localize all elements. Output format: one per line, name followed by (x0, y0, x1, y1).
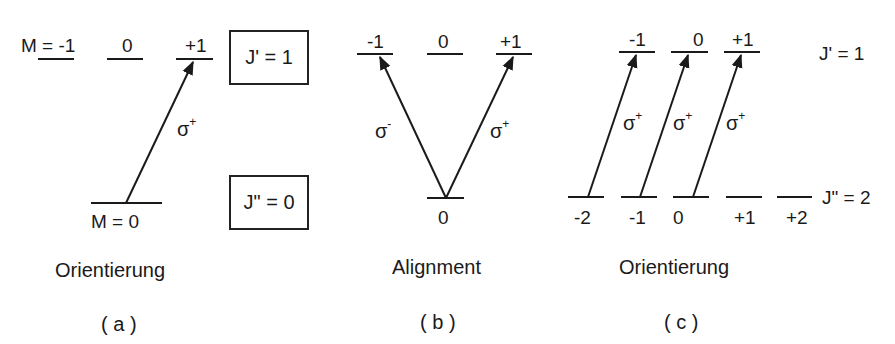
panel-b-caption: ( b ) (420, 312, 456, 332)
panel-c-lower-level-m+2: +2 (786, 208, 808, 227)
panel-b-sigma-plus: σ+ (490, 120, 509, 141)
panel-c-sigma-plus-2: σ+ (673, 112, 692, 133)
panel-b-level-m0: 0 (438, 32, 449, 51)
panel-a-upper-state-box: J' = 1 (229, 30, 309, 85)
panel-c-caption: ( c ) (664, 312, 698, 332)
panel-a-caption: ( a ) (101, 314, 137, 334)
panel-c-lower-level-m-1: -1 (629, 208, 646, 227)
panel-b-level-m+1: +1 (500, 32, 522, 51)
panel-c-level-m+1: +1 (732, 30, 754, 49)
panel-a-level-m0: 0 (122, 36, 133, 55)
panel-a-lower-state-box: J" = 0 (229, 175, 309, 230)
panel-c-sigma-plus-3: σ+ (726, 112, 745, 133)
panel-a-level-m+1: +1 (185, 36, 207, 55)
panel-b-sigma-minus: σ- (375, 120, 391, 141)
panel-a-lower-level-label: M = 0 (91, 212, 139, 231)
panel-b-lower-level-label: 0 (438, 208, 449, 227)
panel-c-level-m0: 0 (693, 30, 704, 49)
panel-c-lower-level-m-2: -2 (574, 208, 591, 227)
panel-c-level-m-1: -1 (629, 30, 646, 49)
panel-c-upper-state-label: J' = 1 (819, 44, 864, 63)
panel-a-sigma-plus: σ+ (177, 118, 196, 139)
panel-c-sigma-plus-1: σ+ (623, 112, 642, 133)
panel-c-title: Orientierung (619, 257, 729, 277)
panel-b-title: Alignment (392, 257, 481, 277)
panel-b-level-m-1: -1 (367, 32, 384, 51)
panel-c-lower-level-m0: 0 (673, 208, 684, 227)
panel-c-lower-state-label: J" = 2 (822, 188, 870, 207)
panel-a-title: Orientierung (55, 260, 165, 280)
panel-a-level-m-1: M = -1 (21, 36, 75, 55)
panel-c-lower-level-m+1: +1 (734, 208, 756, 227)
